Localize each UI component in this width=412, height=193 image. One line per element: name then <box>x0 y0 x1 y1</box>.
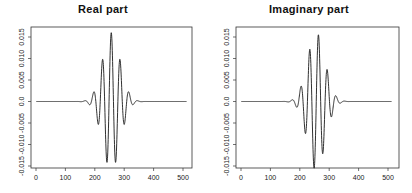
x-tick-label: 500 <box>382 174 394 181</box>
x-tick-label: 400 <box>353 174 365 181</box>
x-tick-label: 400 <box>148 174 160 181</box>
y-tick-label: -0.010 <box>223 134 230 154</box>
x-tick-label: 0 <box>239 174 243 181</box>
real-part-plot: -0.015-0.010-0.0050.00.0050.0100.0150100… <box>0 0 206 193</box>
y-tick-label: 0.005 <box>18 71 25 89</box>
y-tick-label: -0.015 <box>223 156 230 176</box>
imaginary-part-panel: Imaginary part -0.015-0.010-0.0050.00.00… <box>206 0 412 193</box>
y-tick-label: 0.010 <box>18 50 25 68</box>
y-tick-label: 0.0 <box>223 97 230 107</box>
x-tick-label: 300 <box>323 174 335 181</box>
imaginary-part-plot: -0.015-0.010-0.0050.00.0050.0100.0150100… <box>206 0 412 193</box>
y-tick-label: 0.015 <box>223 28 230 46</box>
waveform-line <box>241 35 391 168</box>
y-tick-label: 0.015 <box>18 28 25 46</box>
x-tick-label: 500 <box>177 174 189 181</box>
y-tick-label: -0.015 <box>18 156 25 176</box>
x-tick-label: 0 <box>34 174 38 181</box>
plot-frame <box>31 27 192 168</box>
x-tick-label: 200 <box>294 174 306 181</box>
x-tick-label: 200 <box>89 174 101 181</box>
x-tick-label: 100 <box>265 174 277 181</box>
y-tick-label: -0.005 <box>223 113 230 133</box>
y-tick-label: -0.010 <box>18 134 25 154</box>
y-tick-label: 0.010 <box>223 50 230 68</box>
y-tick-label: 0.0 <box>18 97 25 107</box>
y-tick-label: -0.005 <box>18 113 25 133</box>
waveform-line <box>36 33 186 163</box>
x-tick-label: 100 <box>60 174 72 181</box>
x-tick-label: 300 <box>118 174 130 181</box>
real-part-panel: Real part -0.015-0.010-0.0050.00.0050.01… <box>0 0 206 193</box>
y-tick-label: 0.005 <box>223 71 230 89</box>
